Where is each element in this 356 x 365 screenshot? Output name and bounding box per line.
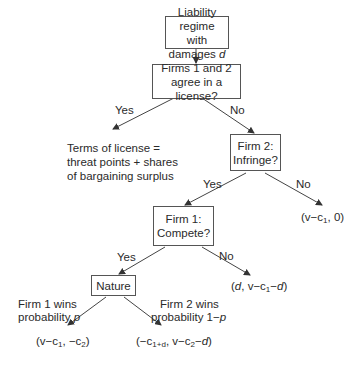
- node-liability-regime: Liability regime with damages d: [165, 16, 229, 49]
- label-firm2-wins-line1: Firm 2 wins: [160, 298, 219, 310]
- payoff-text: (v−c: [36, 335, 58, 347]
- payoff-no-compete: (d, v−c1−d): [231, 279, 287, 293]
- payoff-text: , v−c: [166, 335, 191, 347]
- label-firm2-prob-text: probability 1−: [151, 311, 220, 323]
- node-compete-line2: Compete?: [157, 226, 210, 240]
- label-firm1-prob-text: probability: [18, 311, 74, 323]
- node-infringe-line2: Infringe?: [233, 153, 278, 167]
- label-infringe-yes: Yes: [203, 177, 222, 191]
- var-p: p: [220, 311, 226, 323]
- payoff-text: −: [195, 335, 202, 347]
- node-firm1-compete: Firm 1: Compete?: [153, 206, 214, 246]
- license-terms-line3: of bargaining surplus: [67, 169, 178, 183]
- node-infringe-line1: Firm 2:: [238, 139, 274, 153]
- payoff-firm2-wins: (−c1+d, v−c2−d): [136, 334, 212, 348]
- node-liability-line2: with damages d: [166, 33, 228, 61]
- payoff-text: ): [283, 280, 287, 292]
- node-license-agreement: Firms 1 and 2 agree in a license?: [152, 64, 241, 99]
- label-firm1-probability: probability p: [18, 310, 80, 324]
- outcome-license-terms: Terms of license = threat points + share…: [67, 141, 178, 183]
- payoff-text: , −c: [63, 335, 82, 347]
- var-p: p: [74, 311, 80, 323]
- label-license-no: No: [230, 103, 245, 117]
- edge-infringe-no: [265, 173, 322, 205]
- label-firm2-wins: Firm 2 wins: [160, 297, 219, 311]
- node-firm2-infringe: Firm 2: Infringe?: [230, 134, 281, 171]
- payoff-text: (−c: [136, 335, 152, 347]
- license-terms-line2: threat points + shares: [67, 155, 178, 169]
- license-terms-line1: Terms of license =: [67, 141, 178, 155]
- payoff-text: ): [208, 335, 212, 347]
- label-firm2-probability: probability 1−p: [151, 310, 226, 324]
- node-nature: Nature: [91, 275, 136, 296]
- payoff-text: ): [86, 335, 90, 347]
- payoff-no-infringe: (v−c1, 0): [301, 210, 344, 224]
- node-liability-line1: Liability regime: [166, 5, 228, 33]
- payoff-firm1-wins: (v−c1, −c2): [36, 334, 90, 348]
- label-compete-yes: Yes: [117, 250, 136, 264]
- label-license-yes: Yes: [115, 103, 134, 117]
- payoff-sub: 1+d: [152, 340, 166, 349]
- edge-license-no: [202, 98, 254, 133]
- var-d: d: [219, 48, 225, 60]
- label-firm1-wins: Firm 1 wins: [18, 297, 77, 311]
- node-license-line1: Firms 1 and 2: [161, 61, 231, 75]
- node-compete-line1: Firm 1:: [166, 212, 202, 226]
- label-firm1-wins-line1: Firm 1 wins: [18, 298, 77, 310]
- node-nature-label: Nature: [96, 279, 131, 293]
- payoff-text: , v−c: [241, 280, 266, 292]
- payoff-text: (v−c: [301, 211, 323, 223]
- label-compete-no: No: [219, 249, 234, 263]
- payoff-text: , 0): [328, 211, 345, 223]
- label-infringe-no: No: [296, 177, 311, 191]
- node-liability-line2-text: with damages: [169, 34, 220, 60]
- node-license-line2: agree in a license?: [153, 75, 240, 103]
